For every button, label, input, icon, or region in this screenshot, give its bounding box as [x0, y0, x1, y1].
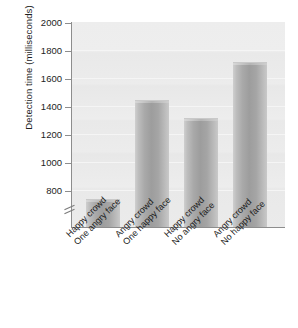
y-tick-label-1800: 1800: [22, 46, 62, 56]
y-tick-1600: [65, 79, 72, 80]
y-tick-1200: [65, 135, 72, 136]
y-tick-label-800: 800: [22, 186, 62, 196]
axis-break-icon: [64, 205, 75, 214]
y-tick-label-1200: 1200: [22, 130, 62, 140]
bar-chart-figure: Detection time (milliseconds) 2000 1800 …: [0, 0, 298, 328]
y-tick-label-1400: 1400: [22, 102, 62, 112]
y-tick-1400: [65, 107, 72, 108]
y-tick-2000: [65, 23, 72, 24]
y-tick-label-2000: 2000: [22, 18, 62, 28]
y-axis-line: [71, 22, 72, 228]
y-tick-1000: [65, 163, 72, 164]
gridline-1800: [72, 50, 285, 51]
y-tick-1800: [65, 51, 72, 52]
y-tick-800: [65, 191, 72, 192]
y-tick-label-1600: 1600: [22, 74, 62, 84]
y-tick-label-1000: 1000: [22, 158, 62, 168]
